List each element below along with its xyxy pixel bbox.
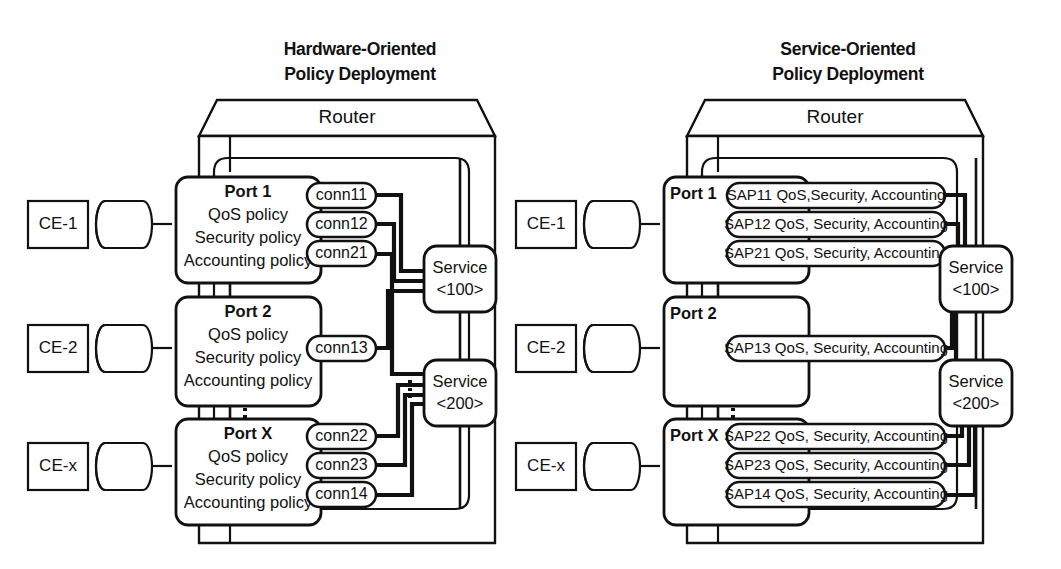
service-label-line1: Service bbox=[948, 258, 1003, 276]
port-name-label: Port X bbox=[224, 424, 273, 442]
link-cylinder-ce-1-service bbox=[584, 201, 640, 248]
sap-pill-sap23[interactable]: SAP23 QoS, Security, Accounting bbox=[724, 453, 948, 478]
sap-label: SAP22 QoS, Security, Accounting bbox=[724, 427, 948, 444]
sap-label: SAP14 QoS, Security, Accounting bbox=[724, 485, 948, 502]
sap-label: SAP12 QoS, Security, Accounting bbox=[724, 215, 948, 232]
sap-pill-sap12[interactable]: SAP12 QoS, Security, Accounting bbox=[724, 212, 948, 237]
service-label-line2: <200> bbox=[953, 394, 1000, 412]
panel-title-line2-service: Policy Deployment bbox=[772, 64, 924, 84]
panel-title-line1-service: Service-Oriented bbox=[780, 39, 915, 59]
port-name-label: Port X bbox=[670, 426, 719, 444]
ce-node-ce-x-hardware: CE-x bbox=[28, 443, 88, 490]
sap-label: SAP13 QoS, Security, Accounting bbox=[724, 339, 948, 356]
service-label-line1: Service bbox=[432, 258, 487, 276]
port-name-label: Port 2 bbox=[670, 304, 717, 322]
port-box-port-x-hardware[interactable]: Port X QoS policy Security policy Accoun… bbox=[176, 419, 321, 525]
port-box-port-1-hardware[interactable]: Port 1 QoS policy Security policy Accoun… bbox=[176, 177, 321, 283]
service-box-100-hardware[interactable]: Service <100> bbox=[424, 246, 496, 312]
ce-node-ce-x-service: CE-x bbox=[516, 443, 576, 490]
ce-node-ce-1-hardware: CE-1 bbox=[28, 201, 88, 248]
connection-label: conn12 bbox=[315, 215, 368, 232]
service-box-200-service[interactable]: Service <200> bbox=[940, 360, 1012, 426]
port-policy-security: Security policy bbox=[195, 470, 302, 488]
ce-label: CE-x bbox=[39, 456, 77, 475]
connection-label: conn13 bbox=[315, 339, 368, 356]
connection-label: conn23 bbox=[315, 456, 368, 473]
link-cylinder-ce-1-hardware bbox=[96, 201, 152, 248]
port-policy-accounting: Accounting policy bbox=[184, 493, 313, 511]
service-box-200-hardware[interactable]: Service <200> bbox=[424, 360, 496, 426]
connection-pill-conn23[interactable]: conn23 bbox=[307, 453, 376, 478]
service-label-line2: <100> bbox=[953, 280, 1000, 298]
port-name-label: Port 1 bbox=[225, 182, 272, 200]
link-cylinder-ce-2-service bbox=[584, 325, 640, 372]
connection-label: conn22 bbox=[315, 427, 368, 444]
port-policy-security: Security policy bbox=[195, 348, 302, 366]
service-label-line1: Service bbox=[432, 372, 487, 390]
sap-label: SAP21 QoS, Security, Accounting bbox=[724, 244, 948, 261]
link-cylinder-ce-2-hardware bbox=[96, 325, 152, 372]
service-label-line1: Service bbox=[948, 372, 1003, 390]
port-policy-security: Security policy bbox=[195, 228, 302, 246]
ce-node-ce-2-service: CE-2 bbox=[516, 325, 576, 372]
connection-pill-conn21[interactable]: conn21 bbox=[307, 241, 376, 266]
router-label-service: Router bbox=[806, 106, 864, 127]
port-policy-qos: QoS policy bbox=[208, 447, 289, 465]
port-policy-accounting: Accounting policy bbox=[184, 251, 313, 269]
router-label-hardware: Router bbox=[318, 106, 376, 127]
ce-label: CE-1 bbox=[527, 214, 566, 233]
sap-pill-sap22[interactable]: SAP22 QoS, Security, Accounting bbox=[724, 424, 948, 449]
ce-label: CE-2 bbox=[39, 338, 78, 357]
port-policy-accounting: Accounting policy bbox=[184, 371, 313, 389]
service-label-line2: <100> bbox=[437, 280, 484, 298]
port-box-port-2-hardware[interactable]: Port 2 QoS policy Security policy Accoun… bbox=[176, 297, 321, 406]
connection-label: conn14 bbox=[315, 485, 368, 502]
connection-pill-conn12[interactable]: conn12 bbox=[307, 212, 376, 237]
connection-label: conn11 bbox=[316, 186, 367, 203]
panel-title-line1-hardware: Hardware-Oriented bbox=[284, 39, 436, 59]
diagram-canvas: Hardware-Oriented Policy Deployment Rout… bbox=[0, 0, 1061, 569]
sap-pill-sap14[interactable]: SAP14 QoS, Security, Accounting bbox=[724, 482, 948, 507]
port-name-label: Port 2 bbox=[225, 302, 272, 320]
sap-label: SAP23 QoS, Security, Accounting bbox=[724, 456, 948, 473]
connection-pill-conn13[interactable]: conn13 bbox=[307, 336, 376, 361]
connection-pill-conn14[interactable]: conn14 bbox=[307, 482, 376, 507]
sap-pill-sap13[interactable]: SAP13 QoS, Security, Accounting bbox=[724, 336, 948, 361]
link-cylinder-ce-x-service bbox=[584, 443, 640, 490]
sap-label: SAP11 QoS,Security, Accounting bbox=[727, 186, 946, 203]
connection-label: conn21 bbox=[315, 244, 368, 261]
ce-node-ce-1-service: CE-1 bbox=[516, 201, 576, 248]
service-box-100-service[interactable]: Service <100> bbox=[940, 246, 1012, 312]
connection-pill-conn22[interactable]: conn22 bbox=[307, 424, 376, 449]
port-policy-qos: QoS policy bbox=[208, 325, 289, 343]
ce-label: CE-x bbox=[527, 456, 565, 475]
link-cylinder-ce-x-hardware bbox=[96, 443, 152, 490]
panel-title-line2-hardware: Policy Deployment bbox=[284, 64, 436, 84]
ce-label: CE-2 bbox=[527, 338, 566, 357]
ce-node-ce-2-hardware: CE-2 bbox=[28, 325, 88, 372]
connection-pill-conn11[interactable]: conn11 bbox=[307, 183, 376, 208]
service-label-line2: <200> bbox=[437, 394, 484, 412]
port-policy-qos: QoS policy bbox=[208, 205, 289, 223]
port-name-label: Port 1 bbox=[670, 184, 717, 202]
sap-pill-sap11[interactable]: SAP11 QoS,Security, Accounting bbox=[727, 183, 946, 208]
ce-label: CE-1 bbox=[39, 214, 78, 233]
sap-pill-sap21[interactable]: SAP21 QoS, Security, Accounting bbox=[724, 241, 948, 266]
